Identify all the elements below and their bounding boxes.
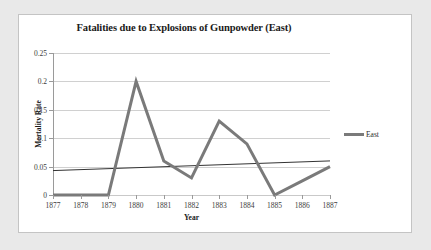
chart-title: Fatalities due to Explosions of Gunpowde… (19, 22, 349, 33)
x-axis-tick (192, 195, 193, 199)
x-axis-tick-label: 1884 (239, 201, 254, 210)
x-axis-tick-label: 1886 (295, 201, 310, 210)
legend-label-east: East (366, 130, 379, 139)
y-axis-tick-label: 0.05 (34, 162, 47, 171)
x-axis-tick-label: 1882 (184, 201, 199, 210)
y-axis-tick-label: 0.2 (38, 77, 47, 86)
x-axis-tick (330, 195, 331, 199)
x-axis-tick (81, 195, 82, 199)
x-axis-tick (275, 195, 276, 199)
chart-legend: East (344, 130, 379, 139)
y-axis-tick-label: 0.25 (34, 49, 47, 58)
x-axis-tick (164, 195, 165, 199)
x-axis-tick-label: 1885 (267, 201, 282, 210)
x-axis-tick-label: 1878 (73, 201, 88, 210)
chart-page: Fatalities due to Explosions of Gunpowde… (0, 0, 431, 250)
y-axis-tick-label: 0 (43, 191, 47, 200)
x-axis-tick-label: 1883 (212, 201, 227, 210)
legend-swatch-east (344, 133, 364, 136)
x-axis-tick-label: 1881 (156, 201, 171, 210)
x-axis-tick-label: 1880 (129, 201, 144, 210)
x-axis-tick (219, 195, 220, 199)
x-axis-tick (108, 195, 109, 199)
chart-panel: Fatalities due to Explosions of Gunpowde… (18, 14, 412, 233)
x-axis-tick (302, 195, 303, 199)
x-tick-label-group: 1877187818791880188118821883188418851886… (53, 201, 330, 213)
series-layer (53, 53, 330, 195)
y-axis-title: Mortality Rate (34, 100, 43, 148)
x-axis-tick-label: 1879 (101, 201, 116, 210)
x-axis-title: Year (53, 213, 330, 222)
plot-area: 00.050.10.150.20.25 Mortality Rate 18771… (53, 53, 330, 195)
x-axis-tick (247, 195, 248, 199)
series-line-east (53, 81, 330, 195)
x-axis-tick (53, 195, 54, 199)
x-axis-tick-label: 1877 (46, 201, 61, 210)
x-axis-tick-label: 1887 (323, 201, 338, 210)
x-axis-tick (136, 195, 137, 199)
